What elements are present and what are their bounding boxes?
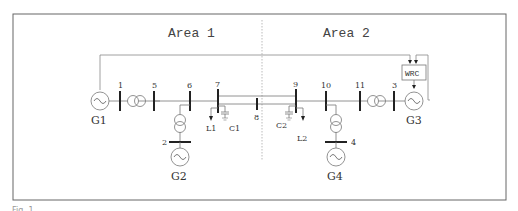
g2-label: G2 (171, 170, 187, 183)
bus-10-label: 10 (321, 81, 331, 90)
branch-6-2 (180, 105, 190, 115)
branch-10-4 (326, 105, 336, 115)
load-arrow-icon (209, 116, 213, 121)
bus-9-label: 9 (293, 80, 298, 89)
c2-label: C2 (276, 121, 287, 130)
transformer-icon (128, 96, 139, 107)
l1-label: L1 (206, 124, 216, 133)
area-1-label: Area 1 (168, 26, 215, 41)
cap-c2-line (289, 106, 296, 112)
load-arrow-icon (301, 116, 305, 121)
arrow-icon (412, 85, 416, 89)
transformer-icon (331, 115, 342, 126)
arrow-icon (408, 60, 412, 64)
bus-4-label: 4 (351, 138, 356, 147)
arrow-icon (414, 60, 418, 64)
bus-7-label: 7 (215, 80, 220, 89)
bus-11-label: 11 (355, 81, 365, 90)
two-area-system-diagram: Area 1 Area 2 WRC G1 1 5 6 2 G2 7 L1 (0, 0, 518, 211)
cap-c1-line (218, 106, 225, 112)
wrc-label: WRC (405, 69, 420, 78)
g1-label: G1 (91, 114, 107, 127)
bus-6-label: 6 (187, 81, 192, 90)
figure-caption: Fig. 1 (12, 206, 34, 211)
bus-2-label: 2 (162, 138, 167, 147)
area-2-label: Area 2 (323, 26, 370, 41)
l2-label: L2 (297, 134, 307, 143)
bus-3-label: 3 (392, 81, 397, 90)
g4-label: G4 (327, 170, 343, 183)
transformer-icon (368, 96, 379, 107)
bus-8-label: 8 (254, 113, 259, 122)
transformer-icon (175, 115, 186, 126)
diagram-frame (13, 14, 506, 200)
bus-5-label: 5 (152, 81, 157, 90)
g3-label: G3 (406, 114, 422, 127)
c1-label: C1 (229, 124, 240, 133)
bus-1-label: 1 (118, 81, 123, 90)
